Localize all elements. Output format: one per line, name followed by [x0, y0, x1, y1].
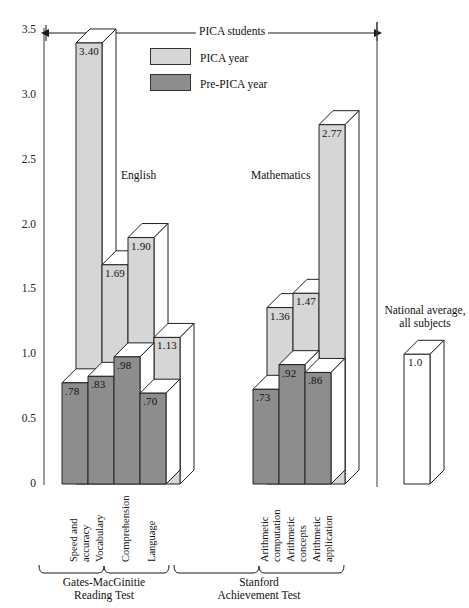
- y-tick-2-0: 2.0: [6, 218, 36, 230]
- pre-pica-year-bar-1-front: [88, 376, 114, 484]
- national-average-bar-side: [430, 340, 444, 484]
- category-label-2-line-0: Comprehension: [120, 496, 131, 563]
- category-label-5: Arithmeticconcepts: [285, 517, 308, 563]
- y-tick-0-5: 0.5: [6, 412, 36, 424]
- pica-students-label: PICA students: [196, 25, 268, 37]
- value-label-pica-year-5: 1.47: [296, 295, 316, 307]
- category-label-6: Arithmeticapplication: [311, 515, 334, 562]
- y-tick-3-5: 3.5: [6, 23, 36, 35]
- value-label-pre-pica-year-6: .86: [308, 374, 322, 386]
- value-label-pica-year-0: 3.40: [79, 45, 99, 57]
- legend-item-pre-pica-year: Pre-PICA year: [200, 78, 267, 90]
- pica-year-bar-3-side: [180, 323, 194, 484]
- pre-pica-year-bar-5-front: [279, 365, 305, 484]
- category-label-1-line-0: Vocabulary: [94, 514, 105, 562]
- y-tick-1-0: 1.0: [6, 347, 36, 359]
- value-label-pre-pica-year-4: .73: [256, 391, 270, 403]
- value-label-pica-year-6: 2.77: [322, 127, 342, 139]
- pre-pica-year-bar-3-side: [166, 379, 180, 484]
- value-label-pica-year-2: 1.90: [131, 240, 151, 252]
- category-label-4-line-1: computation: [271, 510, 283, 563]
- national-average-bar-front: [404, 354, 430, 484]
- national-average-label-line2: all subjects: [382, 317, 468, 330]
- category-label-3: Language: [146, 521, 157, 562]
- category-label-0: Speed andaccuracy: [68, 519, 91, 562]
- value-label-pre-pica-year-0: .78: [65, 385, 79, 397]
- test-label-stanford-line2: Achievement Test: [189, 589, 329, 602]
- y-tick-3-0: 3.0: [6, 88, 36, 100]
- group-label-mathematics: Mathematics: [251, 169, 310, 181]
- y-tick-2-5: 2.5: [6, 153, 36, 165]
- chart-figure: 00.51.01.52.02.53.03.5 3.40.781.69.831.9…: [0, 0, 469, 608]
- bars-layer: [62, 29, 444, 484]
- category-label-3-line-0: Language: [146, 521, 157, 562]
- test-label-gates-line1: Gates-MacGinitie: [34, 576, 174, 589]
- test-label-gates-line2: Reading Test: [34, 589, 174, 602]
- category-label-6-line-0: Arithmetic: [311, 515, 323, 562]
- y-tick-1-5: 1.5: [6, 282, 36, 294]
- value-label-pica-year-3: 1.13: [157, 339, 177, 351]
- value-label-pre-pica-year-1: .83: [91, 378, 105, 390]
- pre-pica-year-bar-4-front: [253, 389, 279, 484]
- category-label-0-line-1: accuracy: [80, 519, 92, 562]
- legend-item-pica-year: PICA year: [200, 52, 248, 64]
- test-label-stanford-line1: Stanford: [189, 576, 329, 589]
- value-label-pica-year-1: 1.69: [105, 267, 125, 279]
- value-label-national-average: 1.0: [408, 356, 422, 368]
- test-brackets: [39, 565, 344, 573]
- pre-pica-year-bar-6-side: [331, 358, 345, 484]
- value-label-pica-year-4: 1.36: [270, 310, 290, 322]
- pre-pica-year-bar-2-front: [114, 357, 140, 484]
- category-label-1: Vocabulary: [94, 514, 105, 562]
- category-label-2: Comprehension: [120, 496, 131, 563]
- category-label-0-line-0: Speed and: [68, 519, 80, 562]
- national-average-label-line1: National average,: [382, 304, 468, 317]
- y-tick-0: 0: [6, 477, 36, 489]
- pre-pica-year-bar-0-front: [62, 383, 88, 484]
- category-label-5-line-0: Arithmetic: [285, 517, 297, 563]
- legend-swatches: [150, 48, 192, 94]
- category-label-5-line-1: concepts: [297, 517, 309, 563]
- value-label-pre-pica-year-5: .92: [282, 367, 296, 379]
- pica-year-bar-6-side: [345, 111, 359, 484]
- value-label-pre-pica-year-3: .70: [143, 395, 157, 407]
- value-label-pre-pica-year-2: .98: [117, 359, 131, 371]
- category-label-4: Arithmeticcomputation: [259, 510, 282, 563]
- category-label-4-line-0: Arithmetic: [259, 510, 271, 563]
- category-label-6-line-1: application: [323, 515, 335, 562]
- group-label-english: English: [121, 169, 156, 181]
- pre-pica-year-bar-6-front: [305, 372, 331, 484]
